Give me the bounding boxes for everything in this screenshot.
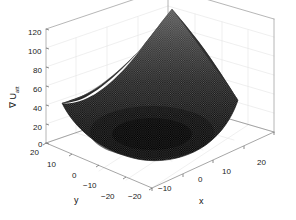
z-tick-label: 80	[33, 66, 42, 75]
y-axis-label: y	[74, 195, 79, 205]
y-tick-label: 10	[47, 160, 56, 169]
y-tick-label: 20	[30, 148, 39, 157]
y-tick-label: 0	[72, 171, 76, 180]
y-tick-label: −10	[83, 181, 97, 190]
surface-mesh	[62, 9, 238, 161]
x-tick-label: 10	[222, 167, 231, 176]
z-tick-label: 20	[33, 123, 42, 132]
z-axis-ticks	[46, 29, 49, 144]
z-tick-label: 100	[28, 47, 41, 56]
z-axis-label-main: U	[8, 93, 18, 102]
figure-container: ∇ Uatt 120 100 80 60 40 20 0 20 10 0 −10…	[0, 0, 296, 220]
x-axis-label: x	[199, 196, 204, 206]
surface-plot-canvas	[0, 0, 296, 220]
surface-valley-hatch	[90, 106, 214, 158]
z-axis-label-subscript: att	[14, 86, 20, 93]
z-tick-label: 40	[33, 104, 42, 113]
z-axis-label: ∇ Uatt	[8, 86, 20, 108]
x-tick-label: −10	[158, 184, 172, 193]
x-tick-label: −20	[128, 192, 142, 201]
z-tick-label: 120	[28, 28, 41, 37]
z-tick-label: 60	[33, 85, 42, 94]
x-tick-label: 20	[257, 158, 266, 167]
y-tick-label: −20	[101, 192, 115, 201]
nabla-icon: ∇	[8, 102, 18, 108]
x-tick-label: 0	[198, 175, 202, 184]
